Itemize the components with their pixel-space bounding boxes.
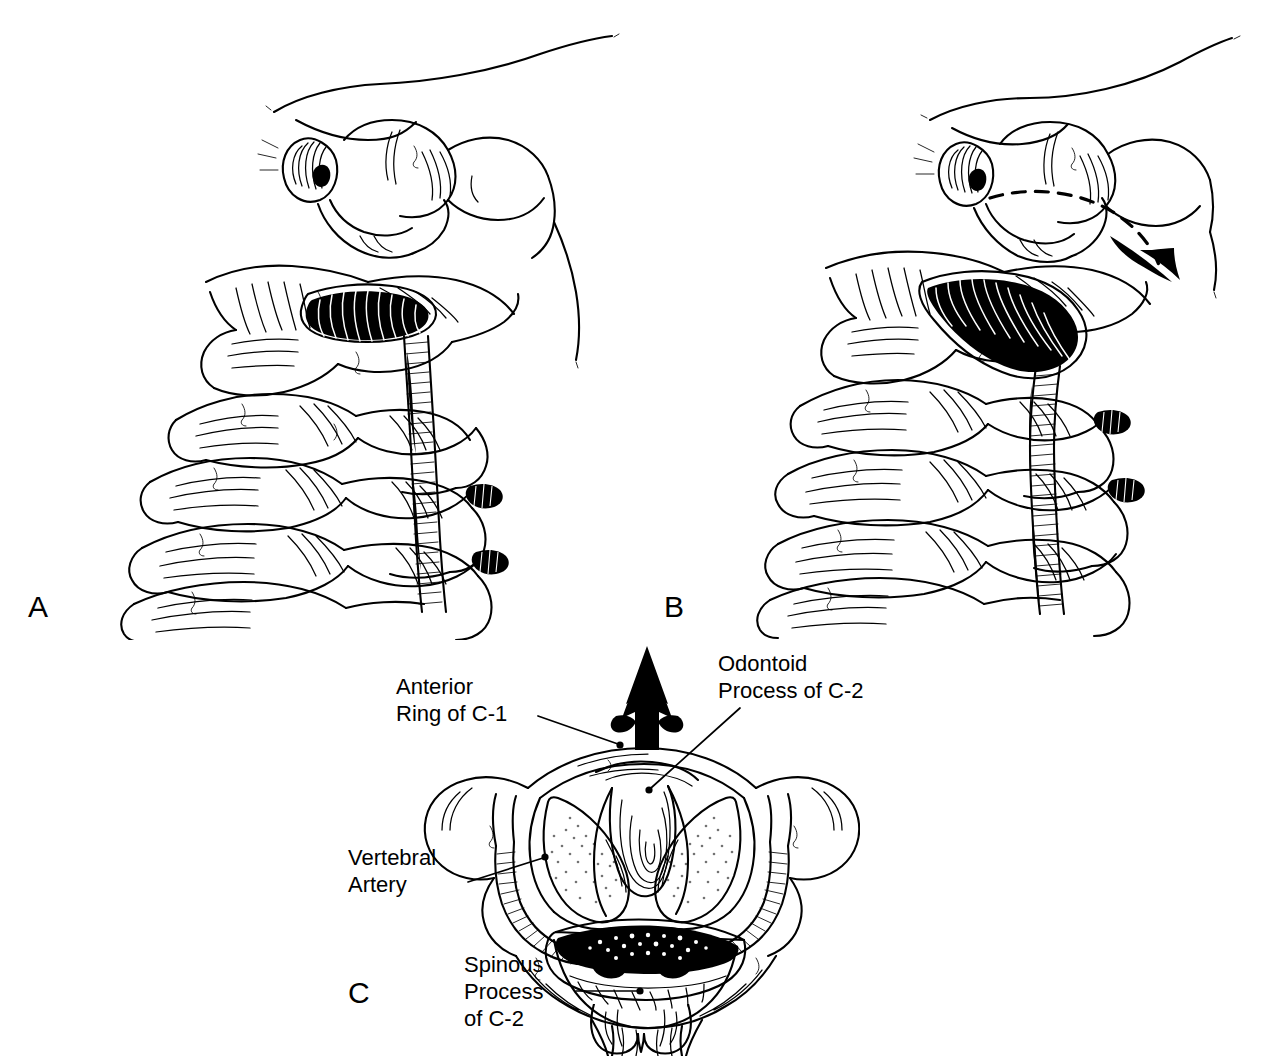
figure-root: A B C Anterior Ring of C-1 Odontoid Proc… bbox=[0, 0, 1268, 1056]
leader-vertebral-artery bbox=[468, 853, 549, 882]
panel-label-a: A bbox=[28, 592, 49, 622]
leader-anterior-ring-of-c1 bbox=[538, 716, 624, 749]
callout-vertebral-artery: Vertebral Artery bbox=[348, 845, 436, 899]
callout-anterior-ring-of-c1: Anterior Ring of C-1 bbox=[396, 674, 507, 728]
callout-odontoid-process-of-c2: Odontoid Process of C-2 bbox=[718, 651, 864, 705]
panel-label-b: B bbox=[664, 592, 685, 622]
callout-leader-lines bbox=[0, 0, 1268, 1056]
panel-label-c: C bbox=[348, 978, 370, 1008]
callout-spinous-process-of-c2: Spinous Process of C-2 bbox=[464, 952, 544, 1032]
leader-odontoid-process-of-c2 bbox=[645, 708, 740, 794]
leader-spinous-process-of-c2 bbox=[576, 987, 644, 994]
